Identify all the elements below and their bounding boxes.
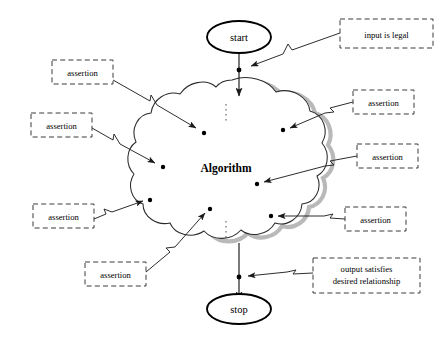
annotation-assertion-top-right[interactable]: assertion	[353, 90, 414, 114]
inner-dot-b	[161, 165, 165, 169]
annotation-input-legal[interactable]: input is legal	[340, 19, 433, 48]
stop-label: stop	[230, 304, 248, 315]
inner-dot-e	[281, 128, 285, 132]
annotation-label-line-2: desired relationship	[333, 276, 401, 286]
inner-dot-g	[269, 214, 273, 218]
annotation-label: assertion	[360, 215, 391, 225]
annotation-label: assertion	[48, 212, 79, 222]
entry-junction-dot	[237, 68, 242, 73]
algorithm-assertions-diagram: Algorithm start stop	[0, 0, 447, 341]
annotation-label: assertion	[100, 270, 131, 280]
inner-dot-d	[208, 207, 212, 211]
inner-dot-f	[255, 182, 259, 186]
annotation-assertion-low-left[interactable]: assertion	[33, 204, 94, 228]
inner-dot-a	[202, 131, 206, 135]
annotation-assertion-low-right[interactable]: assertion	[345, 207, 406, 231]
cloud-label: Algorithm	[200, 162, 252, 175]
annotation-label: assertion	[372, 152, 403, 162]
algorithm-cloud: Algorithm	[128, 78, 327, 239]
connector-output-satisfies	[248, 270, 313, 276]
annotation-label-line-1: output satisfies	[341, 264, 393, 274]
stop-node: stop	[207, 294, 271, 324]
exit-junction-dot	[237, 275, 242, 280]
annotation-assertion-mid-right[interactable]: assertion	[357, 144, 418, 168]
start-label: start	[230, 32, 248, 43]
inner-dot-c	[148, 198, 152, 202]
annotation-assertion-mid-left[interactable]: assertion	[31, 113, 92, 137]
annotation-label: assertion	[46, 121, 77, 131]
annotation-assertion-bottom-left[interactable]: assertion	[85, 262, 146, 286]
start-node: start	[207, 21, 271, 53]
diagram-canvas: Algorithm start stop	[0, 0, 447, 341]
annotation-assertion-top-left[interactable]: assertion	[52, 60, 113, 84]
annotation-label: input is legal	[364, 30, 409, 40]
annotation-label: assertion	[67, 68, 98, 78]
annotation-output-satisfies[interactable]: output satisfies desired relationship	[313, 258, 420, 293]
connector-assertion-low-left	[94, 201, 143, 219]
annotation-label: assertion	[368, 98, 399, 108]
